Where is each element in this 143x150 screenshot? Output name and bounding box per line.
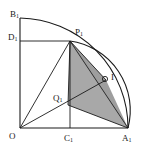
label-origin: O: [9, 131, 16, 141]
label-i: I: [111, 72, 114, 82]
label-p1-sub: 1: [80, 31, 83, 37]
label-q1-sub: 1: [60, 97, 63, 103]
label-c1: C1: [64, 133, 73, 143]
label-c1-sub: 1: [70, 137, 73, 143]
geometry-canvas: B1 D1 P1 Q1 I O C1 A1: [0, 0, 143, 150]
geometry-figure: B1 D1 P1 Q1 I O C1 A1: [0, 0, 143, 150]
label-i-base: I: [111, 72, 114, 82]
label-a1: A1: [122, 133, 132, 143]
label-origin-base: O: [9, 131, 16, 141]
label-b1-sub: 1: [16, 13, 19, 19]
label-b1: B1: [10, 9, 19, 19]
label-a1-sub: 1: [129, 137, 132, 143]
label-q1: Q1: [53, 93, 63, 103]
label-d1: D1: [8, 32, 18, 42]
label-p1: P1: [75, 27, 83, 37]
segment-o-p1: [20, 41, 70, 128]
label-d1-sub: 1: [15, 36, 18, 42]
